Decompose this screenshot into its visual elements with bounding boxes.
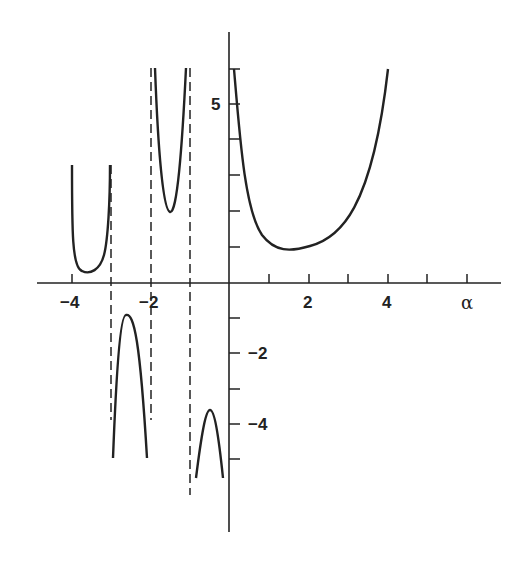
x-tick-label: 2 (303, 293, 312, 312)
curves (72, 68, 388, 478)
x-axis-label: α (461, 292, 473, 313)
asymptotes (111, 68, 190, 495)
x-tick-label: 4 (382, 293, 392, 312)
curve-positive (234, 69, 388, 250)
gamma-function-plot: −4 −2 2 4 α 5 −2 −4 (0, 0, 527, 566)
curve-branch-minus2-minus1 (155, 68, 186, 212)
x-ticks (72, 274, 467, 283)
plot-canvas: −4 −2 2 4 α 5 −2 −4 (0, 0, 527, 566)
curve-branch-minus3-minus2 (113, 315, 147, 458)
curve-branch-minus1-0 (196, 410, 223, 478)
y-tick-label: −4 (248, 415, 268, 434)
x-tick-label: −2 (139, 293, 158, 312)
x-tick-label: −4 (60, 293, 80, 312)
curve-branch-minus4-minus3 (72, 165, 110, 272)
y-tick-label: 5 (211, 95, 220, 114)
y-tick-label: −2 (248, 344, 267, 363)
